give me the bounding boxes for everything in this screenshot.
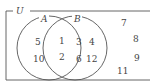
element-intersection: 2 <box>59 52 65 62</box>
element-outside: 8 <box>133 34 139 44</box>
universe-label: U <box>16 6 24 16</box>
set-a-circle <box>17 16 81 80</box>
element-outside: 11 <box>117 66 128 76</box>
element-outside: 7 <box>121 18 127 28</box>
element-b-only: 6 <box>76 54 82 64</box>
element-b-only: 3 <box>76 37 82 47</box>
element-outside: 9 <box>134 53 140 63</box>
set-b-label: B <box>73 14 81 24</box>
venn-diagram: U A B 5 10 1 2 3 4 6 12 7 8 9 11 <box>0 0 150 84</box>
set-b-circle <box>43 16 107 80</box>
element-b-only: 4 <box>89 37 95 47</box>
element-a-only: 5 <box>35 37 41 47</box>
element-intersection: 1 <box>59 36 65 46</box>
element-a-only: 10 <box>33 54 45 64</box>
set-a-label: A <box>40 14 48 24</box>
element-b-only: 12 <box>86 54 97 64</box>
